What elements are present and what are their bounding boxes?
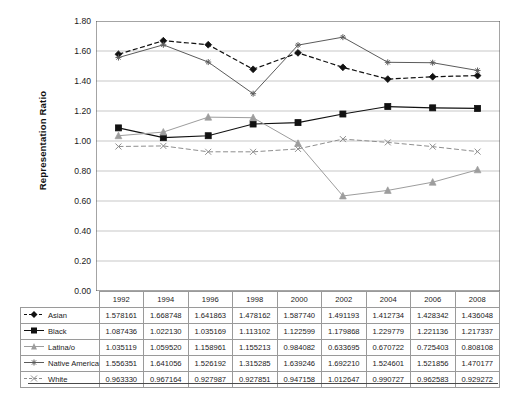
table-cell: 1.524601	[366, 355, 411, 371]
data-point-marker	[340, 34, 346, 40]
table-cell: 0.984082	[277, 339, 322, 355]
data-point-marker	[340, 111, 346, 117]
legend-marker-icon	[23, 372, 45, 387]
y-axis-tick-label: 1.80	[74, 17, 91, 26]
y-axis-tick-label: 1.20	[74, 107, 91, 116]
legend-item-native-american: Native American	[21, 355, 100, 371]
data-point-marker	[475, 67, 481, 73]
table-cell: 0.962583	[411, 371, 456, 387]
data-point-marker	[295, 42, 301, 48]
series-native-american	[115, 34, 480, 97]
y-axis-tick-label: 0.20	[74, 257, 91, 266]
table-column-header: 2008	[455, 292, 500, 308]
data-point-marker	[385, 104, 391, 110]
data-table: 199219941996199820002002200420062008 Asi…	[20, 291, 500, 388]
data-point-marker	[205, 41, 212, 48]
table-cell: 0.929272	[455, 371, 500, 387]
table-cell: 1.521856	[411, 355, 456, 371]
table-column-header: 1998	[233, 292, 278, 308]
y-axis-tick-label: 1.40	[74, 77, 91, 86]
legend-item-latina-o: Latina/o	[21, 339, 100, 355]
table-cell: 0.947158	[277, 371, 322, 387]
table-cell: 1.556351	[99, 355, 144, 371]
table-cell: 1.470177	[455, 355, 500, 371]
table-cell: 1.035169	[188, 323, 233, 339]
table-cell: 1.022130	[144, 323, 189, 339]
data-point-marker	[475, 149, 481, 155]
table-column-header: 2006	[411, 292, 456, 308]
data-point-marker	[205, 59, 211, 65]
y-axis-tick-label: 0.60	[74, 197, 91, 206]
legend-marker-icon	[23, 340, 45, 355]
table-cell: 0.633695	[322, 339, 367, 355]
legend-label: Latina/o	[48, 343, 75, 352]
table-cell: 1.526192	[188, 355, 233, 371]
table-column-header: 2000	[277, 292, 322, 308]
data-point-marker	[295, 49, 302, 56]
data-point-marker	[250, 66, 257, 73]
y-axis-tick-label: 1.60	[74, 47, 91, 56]
legend-marker-icon	[23, 324, 45, 339]
table-cell: 0.990727	[366, 371, 411, 387]
table-cell: 0.963330	[99, 371, 144, 387]
legend-marker-icon	[23, 308, 45, 323]
table-row: Asian1.5781611.6687481.6418631.4781621.5…	[21, 307, 500, 323]
table-column-header: 2004	[366, 292, 411, 308]
data-point-marker	[475, 105, 481, 111]
table-cell: 1.641863	[188, 307, 233, 323]
footer-divider	[28, 383, 498, 384]
table-cell: 1.155213	[233, 339, 278, 355]
table-cell: 1.668748	[144, 307, 189, 323]
table-cell: 1.059520	[144, 339, 189, 355]
data-point-marker	[160, 135, 166, 141]
table-cell: 1.478162	[233, 307, 278, 323]
table-cell: 1.436048	[455, 307, 500, 323]
table-cell: 0.808108	[455, 339, 500, 355]
table-row: Native American1.5563511.6410561.5261921…	[21, 355, 500, 371]
series-black	[115, 104, 480, 141]
table-body: Asian1.5781611.6687481.6418631.4781621.5…	[21, 307, 500, 387]
data-point-marker	[250, 121, 256, 127]
data-point-marker	[429, 73, 436, 80]
table-cell: 1.428342	[411, 307, 456, 323]
table-cell: 0.927987	[188, 371, 233, 387]
data-point-marker	[430, 60, 436, 66]
table-cell: 1.221136	[411, 323, 456, 339]
table-cell: 1.315285	[233, 355, 278, 371]
data-point-marker	[474, 166, 481, 173]
table-cell: 1.692210	[322, 355, 367, 371]
table-cell: 1.087436	[99, 323, 144, 339]
data-point-marker	[430, 105, 436, 111]
table-cell: 1.587740	[277, 307, 322, 323]
table-cell: 1.217337	[455, 323, 500, 339]
series-line	[118, 117, 477, 196]
table-cell: 0.725403	[411, 339, 456, 355]
table-column-header: 1994	[144, 292, 189, 308]
table-cell: 1.229779	[366, 323, 411, 339]
legend-marker-icon	[23, 356, 45, 371]
legend-label: Black	[48, 327, 67, 336]
table-header: 199219941996199820002002200420062008	[21, 292, 500, 308]
series-latina-o	[115, 114, 481, 199]
legend-label: Native American	[48, 359, 99, 368]
table-cell: 1.113102	[233, 323, 278, 339]
table-cell: 1.578161	[99, 307, 144, 323]
data-point-marker	[205, 133, 211, 139]
table-header-row: 199219941996199820002002200420062008	[21, 292, 500, 308]
data-point-marker	[115, 55, 121, 61]
legend-label: Asian	[48, 311, 67, 320]
table-row: Latina/o1.0351191.0595201.1589611.155213…	[21, 339, 500, 355]
table-column-header: 1992	[99, 292, 144, 308]
plot-area: 0.000.200.400.600.801.001.201.401.601.80	[96, 21, 500, 291]
data-point-marker	[295, 120, 301, 126]
table-cell: 1.122599	[277, 323, 322, 339]
table-cell: 1.412734	[366, 307, 411, 323]
table-column-header: 1996	[188, 292, 233, 308]
chart-canvas	[96, 21, 500, 291]
data-point-marker	[339, 64, 346, 71]
y-axis-title: Representation Ratio	[37, 41, 48, 241]
chart-figure: Representation Ratio 0.000.200.400.600.8…	[0, 0, 526, 395]
y-axis-tick-label: 0.80	[74, 167, 91, 176]
data-point-marker	[115, 125, 121, 131]
legend-item-black: Black	[21, 323, 100, 339]
